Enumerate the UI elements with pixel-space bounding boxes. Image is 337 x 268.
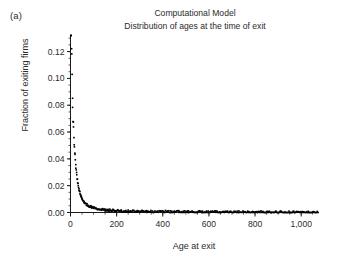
plot-area: 0.000.020.040.060.080.100.12 02004006008… (0, 0, 337, 268)
data-point (113, 209, 115, 211)
data-point (74, 154, 76, 156)
data-point (107, 209, 109, 211)
data-point (70, 35, 72, 37)
data-point (80, 194, 82, 196)
data-point (317, 212, 319, 214)
y-tick-labels: 0.000.020.040.060.080.100.12 (48, 47, 65, 218)
data-point (76, 174, 78, 176)
data-point (207, 212, 209, 214)
data-point (77, 178, 79, 180)
data-point (288, 210, 290, 212)
data-point (247, 210, 249, 212)
data-point (287, 212, 289, 214)
y-tick-label: 0.00 (48, 208, 65, 218)
data-series-exit-ages (70, 35, 319, 214)
data-point (206, 210, 208, 212)
data-point (76, 172, 78, 174)
data-point (78, 188, 80, 190)
data-point (75, 167, 77, 169)
x-tick-label: 600 (202, 219, 217, 229)
data-point (72, 97, 74, 99)
x-tick-label: 1,000 (290, 219, 312, 229)
data-point (71, 53, 73, 55)
data-point (82, 200, 84, 202)
data-point (202, 210, 204, 212)
x-tick-label: 0 (68, 219, 73, 229)
data-point (75, 159, 77, 161)
data-point (73, 126, 75, 128)
data-point (71, 74, 73, 76)
data-point (169, 212, 171, 214)
y-tick-label: 0.12 (48, 47, 65, 57)
y-tick-label: 0.02 (48, 181, 65, 191)
data-point (101, 209, 103, 211)
data-point (75, 164, 77, 166)
data-point (149, 211, 151, 213)
data-point (150, 210, 152, 212)
data-point (132, 211, 134, 213)
y-tick-label: 0.08 (48, 100, 65, 110)
data-point (237, 212, 239, 214)
y-tick-label: 0.06 (48, 127, 65, 137)
y-tick-label: 0.04 (48, 154, 65, 164)
data-point (73, 121, 75, 123)
data-point (72, 107, 74, 109)
data-point (157, 212, 159, 214)
data-point (108, 209, 110, 211)
data-point (74, 146, 76, 148)
x-tick-label: 400 (156, 219, 171, 229)
data-point (77, 183, 79, 185)
data-point (168, 210, 170, 212)
data-point (81, 197, 83, 199)
figure-panel: (a) Computational Model Distribution of … (0, 0, 337, 268)
data-point (86, 203, 88, 205)
data-point (71, 48, 73, 50)
data-point (107, 211, 109, 213)
data-point (205, 212, 207, 214)
x-tick-label: 200 (109, 219, 124, 229)
data-point (183, 212, 185, 214)
data-point (77, 185, 79, 187)
data-point (75, 169, 77, 171)
data-point (164, 212, 166, 214)
data-point (169, 210, 171, 212)
data-point (152, 210, 154, 212)
x-tick-labels: 02004006008001,000 (68, 219, 312, 229)
data-point (186, 210, 188, 212)
x-tick-label: 800 (248, 219, 263, 229)
data-point (73, 137, 75, 139)
data-point (73, 144, 75, 146)
y-axis-major-ticks (67, 52, 71, 213)
data-point (85, 202, 87, 204)
data-point (259, 212, 261, 214)
data-point (94, 206, 96, 208)
data-point (111, 210, 113, 212)
y-tick-label: 0.10 (48, 73, 65, 83)
data-point (79, 191, 81, 193)
data-point (191, 210, 193, 212)
